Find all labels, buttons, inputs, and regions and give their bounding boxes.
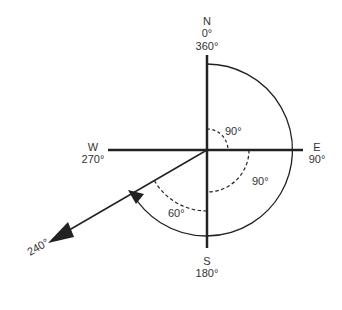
arc-arrowhead-icon (128, 190, 144, 204)
west-deg: 270° (82, 153, 105, 165)
angle-label-2: 90° (252, 175, 269, 187)
bearing-line (52, 150, 207, 240)
north-letter: N (203, 15, 211, 27)
angle-label-1: 90° (225, 125, 242, 137)
angle-arc-2 (207, 150, 249, 192)
bearing-arrowhead-icon (48, 222, 74, 243)
east-letter: E (313, 141, 320, 153)
east-deg: 90° (309, 153, 326, 165)
angle-label-3: 60° (168, 207, 185, 219)
compass-diagram: N 0° 360° E 90° S 180° W 270° 90° 90° 60… (0, 0, 342, 310)
south-letter: S (203, 255, 210, 267)
bearing-label: 240° (25, 236, 51, 258)
west-letter: W (88, 141, 99, 153)
north-deg-zero: 0° (202, 27, 213, 39)
north-deg-360: 360° (196, 40, 219, 52)
south-deg: 180° (196, 267, 219, 279)
